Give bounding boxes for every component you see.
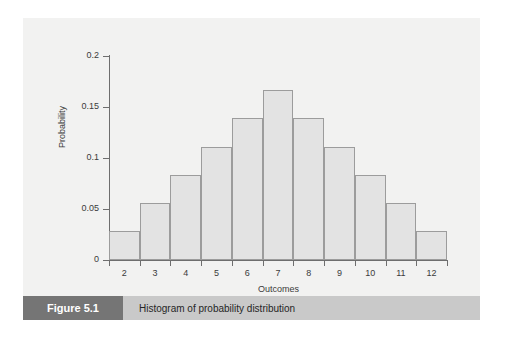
x-axis-title: Outcomes [109, 284, 448, 294]
x-axis-tick [201, 261, 202, 266]
x-axis-tick [447, 261, 448, 266]
x-axis-tick-label: 5 [200, 268, 234, 278]
histogram-bar [416, 231, 447, 260]
y-axis-tick-label-wrap: 0.05 [53, 203, 99, 214]
x-axis-tick-label: 9 [322, 268, 356, 278]
histogram-bar [386, 203, 417, 260]
y-axis-title: Probability [57, 82, 67, 172]
y-axis-tick [103, 107, 109, 108]
x-axis-tick [232, 261, 233, 266]
histogram-bar [263, 90, 294, 260]
x-axis-tick [293, 261, 294, 266]
histogram-bar [140, 203, 171, 260]
histogram-bar [324, 147, 355, 260]
x-axis-line [109, 260, 448, 261]
histogram-bar [170, 175, 201, 260]
x-axis-tick [386, 261, 387, 266]
x-axis-tick [416, 261, 417, 266]
histogram-bar [293, 118, 324, 260]
x-axis-tick-label: 3 [138, 268, 172, 278]
x-axis-tick [170, 261, 171, 266]
figure-panel: 00.050.10.150.2 23456789101112 Outcomes … [23, 18, 480, 320]
histogram-bar [355, 175, 386, 260]
x-axis-tick [324, 261, 325, 266]
histogram-bar [201, 147, 232, 260]
y-axis-tick [103, 56, 109, 57]
histogram-bars [109, 56, 447, 260]
x-axis-tick-label: 7 [261, 268, 295, 278]
plot-area [109, 56, 447, 260]
y-axis-tick-label-wrap: 0.2 [53, 50, 99, 61]
x-axis-tick [263, 261, 264, 266]
x-axis-tick-label: 12 [415, 268, 449, 278]
y-axis-tick-label-wrap: 0 [53, 254, 99, 265]
x-axis-tick-label: 2 [107, 268, 141, 278]
y-axis-tick-label: 0.05 [81, 203, 99, 213]
x-axis-tick-label: 8 [292, 268, 326, 278]
x-axis-tick-label: 6 [230, 268, 264, 278]
y-axis-tick-label: 0.2 [86, 50, 99, 60]
figure-number-tag: Figure 5.1 [23, 296, 123, 320]
histogram-bar [109, 231, 140, 260]
x-axis-tick [140, 261, 141, 266]
x-axis-tick-label: 4 [169, 268, 203, 278]
y-axis-tick [103, 209, 109, 210]
y-axis-tick-label: 0 [94, 254, 99, 264]
y-axis-tick-label: 0.1 [86, 152, 99, 162]
histogram-bar [232, 118, 263, 260]
figure-caption-text: Histogram of probability distribution [139, 296, 295, 320]
x-axis-tick [355, 261, 356, 266]
figure-container: 00.050.10.150.2 23456789101112 Outcomes … [0, 0, 506, 342]
y-axis-tick [103, 158, 109, 159]
x-axis-tick-label: 11 [384, 268, 418, 278]
figure-caption-bar: Figure 5.1 Histogram of probability dist… [23, 296, 480, 320]
x-axis-tick [109, 261, 110, 266]
x-axis-tick-label: 10 [353, 268, 387, 278]
y-axis-tick-label: 0.15 [81, 101, 99, 111]
